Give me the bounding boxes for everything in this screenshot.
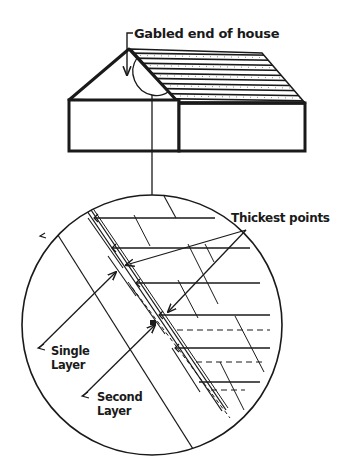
thickest-points-label: Thickest points	[231, 211, 330, 225]
second-layer-label: Second Layer	[97, 390, 142, 418]
gabled-end-label: Gabled end of house	[134, 26, 279, 41]
diagram-canvas	[0, 0, 343, 464]
single-layer-label: Single Layer	[51, 344, 90, 372]
second-layer-label-line2: Layer	[97, 404, 142, 418]
side-wall	[179, 103, 305, 151]
front-wall	[69, 100, 179, 151]
single-layer-label-line2: Layer	[51, 358, 90, 372]
single-layer-label-line1: Single	[51, 344, 90, 358]
house-illustration	[69, 33, 320, 195]
magnified-detail	[22, 195, 282, 460]
second-layer-label-line1: Second	[97, 390, 142, 404]
